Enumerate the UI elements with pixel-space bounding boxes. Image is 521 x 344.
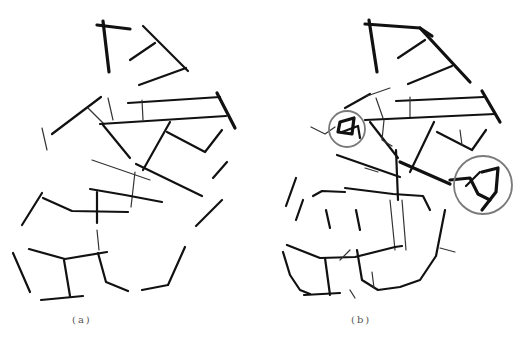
caption-a: (a) — [72, 314, 92, 325]
panel-a: (a) — [0, 0, 260, 344]
panel-b: (b) — [260, 0, 521, 344]
highlight-circle-large — [454, 156, 512, 214]
line-network-b — [260, 0, 521, 344]
line-network-a — [0, 0, 260, 344]
caption-b: (b) — [351, 314, 371, 325]
